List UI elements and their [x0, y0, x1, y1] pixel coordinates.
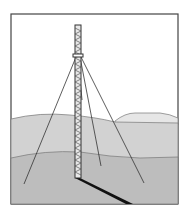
lattice-mast — [73, 25, 83, 178]
near-ground — [11, 152, 178, 204]
guy-collar — [73, 54, 83, 57]
mast-illustration — [0, 0, 190, 216]
